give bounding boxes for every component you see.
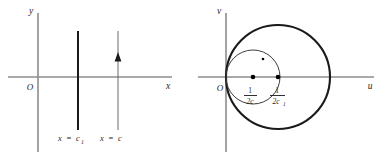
label-c-prefix: x	[99, 133, 104, 143]
frac-2c-numerator: 1	[248, 86, 252, 95]
figure-container: y x O x = c 1 x = c	[0, 0, 386, 160]
label-fraction-one-over-2c: 1 2c	[244, 86, 257, 106]
label-c-equals: =	[108, 133, 114, 143]
frac-2c-denominator: 2c	[246, 97, 254, 106]
label-c1-subscript: 1	[81, 139, 84, 145]
up-arrow-icon	[115, 52, 122, 62]
center-dot-large-circle	[276, 75, 281, 80]
label-x-equals-c: x = c	[99, 133, 122, 143]
frac-2c1-denominator: 2c	[272, 97, 280, 106]
label-c1-prefix: x	[57, 133, 62, 143]
frac-2c1-numerator: 1	[275, 86, 279, 95]
label-c1-equals: =	[66, 133, 72, 143]
u-axis-label: u	[368, 81, 373, 91]
label-x-equals-c1: x = c 1	[57, 133, 84, 145]
label-c-base: c	[118, 133, 122, 143]
v-axis-label: v	[217, 6, 222, 16]
figure-canvas: y x O x = c 1 x = c	[0, 0, 386, 160]
left-panel-z-plane: y x O x = c 1 x = c	[8, 6, 172, 152]
center-dot-small-circle	[251, 75, 256, 80]
y-axis-label: y	[28, 6, 34, 16]
left-origin-label: O	[27, 82, 34, 92]
frac-2c1-denominator-subscript: 1	[283, 101, 286, 107]
label-fraction-one-over-2c1: 1 2c 1	[270, 86, 286, 107]
right-panel-w-plane: v u O 1 2c 1 2	[198, 6, 374, 152]
right-origin-label: O	[217, 83, 224, 93]
arc-marker-dot-small-circle	[262, 58, 265, 61]
x-axis-label: x	[165, 81, 171, 91]
label-c1-base: c	[76, 133, 80, 143]
